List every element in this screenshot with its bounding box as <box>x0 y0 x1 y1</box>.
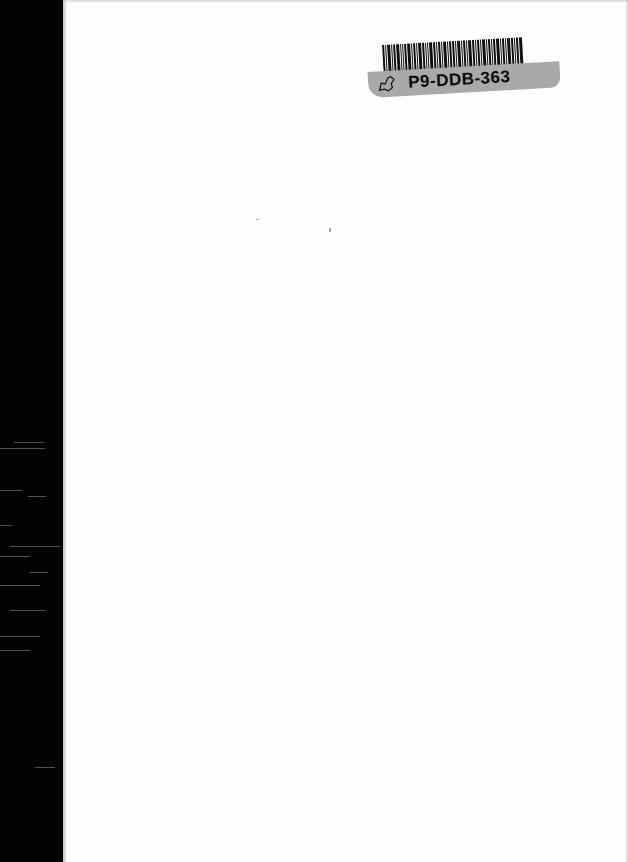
library-barcode-sticker: P9-DDB-363 <box>366 33 561 102</box>
sticker-code: P9-DDB-363 <box>408 67 511 93</box>
scan-speck <box>256 219 259 220</box>
map-outline-icon <box>376 73 399 94</box>
scanned-page: P9-DDB-363 <box>0 0 628 862</box>
scan-speck <box>329 228 331 232</box>
binding-shadow <box>63 0 67 862</box>
page-top-edge <box>63 0 628 2</box>
binding-strip <box>0 0 63 862</box>
